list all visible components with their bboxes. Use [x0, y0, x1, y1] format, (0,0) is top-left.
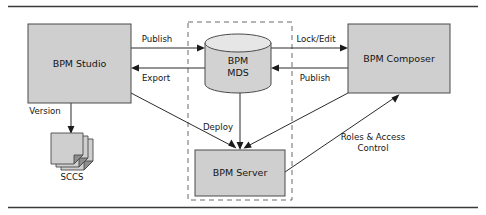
node-bpm-composer[interactable]: BPM Composer [348, 24, 450, 93]
edge-studio-to-mds-arrowhead [197, 45, 205, 52]
node-bpm-mds[interactable]: BPM MDS [205, 34, 271, 93]
bpm-composer-label: BPM Composer [363, 53, 435, 64]
edge-label-lock-edit: Lock/Edit [296, 34, 336, 44]
edge-studio-to-server-arrowhead [228, 140, 236, 149]
bpm-studio-label: BPM Studio [53, 58, 107, 69]
edge-mds-to-composer-arrowhead [340, 45, 348, 52]
edge-composer-to-mds-arrowhead [271, 65, 279, 72]
edge-studio-to-server-line [131, 93, 234, 147]
edge-label-version: Version [29, 106, 61, 116]
sccs-document-stack-icon[interactable]: SCCS [51, 133, 93, 182]
edge-label-deploy: Deploy [203, 122, 233, 132]
bpm-server-label: BPM Server [213, 167, 268, 178]
bpm-mds-cylinder-top [205, 34, 271, 52]
edge-server-to-composer-arrowhead [392, 94, 400, 103]
edge-label-roles-access-line2: Control [357, 143, 388, 153]
bpm-mds-label-line1: BPM [228, 55, 248, 66]
edge-composer-to-server-line [246, 93, 348, 147]
edge-label-publish-studio: Publish [142, 34, 173, 44]
node-bpm-server[interactable]: BPM Server [195, 150, 285, 196]
diagram-figure: BPM Studio BPM Composer BPM MDS BPM Serv… [0, 0, 486, 215]
edge-label-export: Export [142, 73, 171, 83]
edge-label-publish-composer: Publish [300, 73, 331, 83]
node-bpm-studio[interactable]: BPM Studio [28, 24, 131, 103]
edge-mds-to-studio-arrowhead [131, 65, 139, 72]
bpm-architecture-diagram: BPM Studio BPM Composer BPM MDS BPM Serv… [0, 0, 486, 215]
edge-mds-to-server-arrowhead [237, 142, 244, 150]
sccs-fold-back [84, 161, 93, 170]
bpm-mds-label-line2: MDS [227, 67, 249, 78]
edge-label-roles-access-line1: Roles & Access [341, 132, 406, 142]
sccs-label: SCCS [61, 172, 84, 182]
